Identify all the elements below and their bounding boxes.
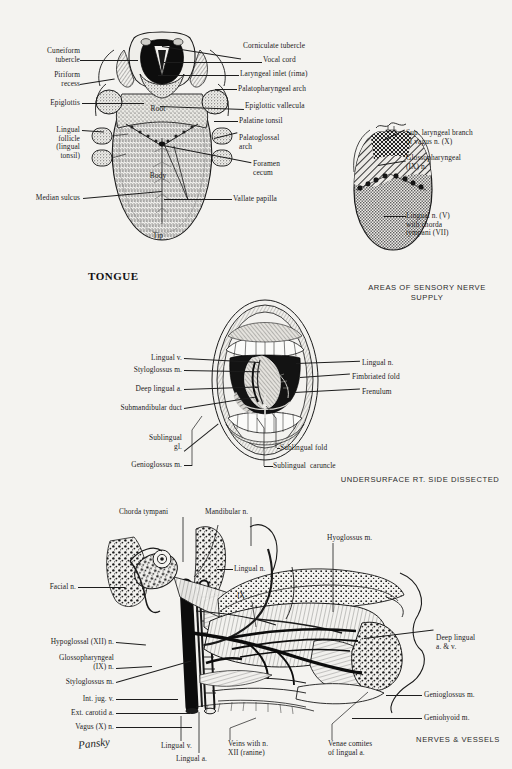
leader-lingual-v-nv [178, 716, 184, 742]
figure-nerves-and-vessels-drawing [100, 515, 430, 745]
figure-caption-nerves-and-vessels: NERVES & VESSELS [408, 735, 508, 745]
leader-cuneiform-tubercle [80, 60, 138, 61]
fig3-label-fimbriated-fold: Fimbriated fold [352, 373, 438, 382]
artist-signature: Pansky [77, 735, 110, 750]
fig4-label-hyoglossus-m: Hyoglossus m. [327, 534, 407, 543]
fig1-label-foramen-cecum: Foramen cecum [253, 160, 343, 177]
fig4-label-lingual-n: Lingual n. [234, 565, 294, 574]
fig4-label-geniohyoid-m: Geniohyoid m. [424, 714, 512, 723]
fig4-label-venae-comites: Venae comites of lingual a. [328, 740, 420, 757]
fig4-label-genioglossus-m: Genioglossus m. [424, 691, 512, 700]
fig3-label-styloglossus-m: Styloglossus m. [100, 366, 182, 375]
fig1-label-palatoglossal-arch: Palatoglossal arch [239, 134, 339, 151]
fig4-label-veins-with-n-xii: Veins with n. XII (ranine) [228, 740, 320, 757]
fig3-genioglossus-pointer [190, 408, 210, 468]
fig2-label-glossopharyngeal: Glossopharyngeal (IX) n. [406, 154, 506, 171]
leader-epiglottis [82, 103, 144, 104]
leader-ext-carotid-a [116, 713, 190, 714]
leader-ix-inline [248, 602, 258, 628]
figure-dorsum-of-tongue-drawing [82, 28, 242, 248]
leader-lingual-n-sensory [384, 216, 406, 217]
leader-facial-n [78, 587, 125, 588]
fig4-label-lingual-v: Lingual v. [161, 742, 223, 751]
leader-int-jug-v [116, 699, 178, 700]
figure-caption-undersurface: UNDERSURFACE RT. SIDE DISSECTED [330, 475, 510, 485]
anatomy-plate-page: Root Body Tip Cuneiform tubercle Pirifor… [0, 0, 512, 769]
fig3-label-deep-lingual-a: Deep lingual a. [100, 385, 182, 394]
leader-veins-with-n-xii [226, 716, 266, 742]
fig1-label-cuneiform-tubercle: Cuneiform tubercle [20, 47, 80, 64]
fig4-label-ix-inline: IX [237, 592, 255, 601]
fig3-label-frenulum: Frenulum [362, 388, 432, 397]
fig3-label-sublingual-fold: Sublingual fold [280, 444, 366, 453]
fig2-label-sup-laryngeal-branch-vagus: Sup. laryngeal branch of vagus n. (X) [406, 129, 510, 146]
fig1-label-lingual-follicle: Lingual follicle (lingual tonsil) [14, 126, 80, 160]
fig1-label-palatine-tonsil: Palatine tonsil [239, 117, 339, 126]
fig1-label-laryngeal-inlet: Laryngeal inlet (rima) [240, 70, 355, 79]
fig1-label-median-sulcus: Median sulcus [10, 194, 80, 203]
fig3-label-genioglossus-m: Genioglossus m. [108, 461, 182, 470]
fig3-label-lingual-v: Lingual v. [110, 354, 182, 363]
fig1-vallate-pointer [160, 142, 190, 202]
figure-caption-sensory-nerve-supply: AREAS OF SENSORY NERVE SUPPLY [352, 283, 502, 302]
leader-lingual-n-nv [217, 569, 233, 570]
figure-title-tongue: TONGUE [88, 270, 138, 282]
fig4-label-glossopharyngeal-ix: Glossopharyngeal (IX) n. [2, 654, 114, 671]
fig1-label-epiglottis: Epiglottis [14, 99, 80, 108]
leader-palatine-tonsil [214, 121, 238, 122]
leader-palatopharyngeal-arch [215, 89, 237, 90]
leader-hyoglossus-m [330, 543, 336, 613]
fig1-label-corniculate-tubercle: Corniculate tubercle [243, 42, 353, 51]
fig1-label-tip: Tip [143, 232, 173, 241]
fig2-label-lingual-n-chorda-tympani: Lingual n. (V) with chorda tympani (VII) [406, 212, 506, 238]
leader-laryngeal-inlet [158, 75, 239, 76]
leader-vocal-cord [163, 62, 262, 63]
fig4-label-deep-lingual-av: Deep lingual a. & v. [436, 634, 512, 651]
fig4-label-hypoglossal-xii: Hypoglossal (XII) n. [2, 638, 114, 647]
leader-lingual-a-nv [196, 712, 202, 754]
fig1-label-palatopharyngeal-arch: Palatopharyngeal arch [238, 85, 356, 94]
fig1-label-vocal-cord: Vocal cord [263, 56, 353, 65]
leader-venae-comites [326, 690, 372, 742]
leader-genioglossus-m-nv [386, 695, 422, 696]
fig4-label-mandibular-n: Mandibular n. [205, 508, 291, 517]
fig4-label-ext-carotid-a: Ext. carotid a. [12, 709, 114, 718]
fig3-caruncle-pointer [252, 412, 268, 468]
fig4-label-int-jug-v: Int. jug. v. [22, 695, 114, 704]
fig1-label-epiglottic-vallecula: Epiglottic vallecula [245, 102, 355, 111]
fig4-label-styloglossus-m: Styloglossus m. [12, 678, 114, 687]
fig3-label-sublingual-caruncle: Sublingual caruncle [273, 462, 383, 471]
fig4-label-chorda-tympani: Chorda tympani [119, 508, 205, 517]
fig3-label-lingual-n: Lingual n. [362, 359, 432, 368]
fig3-label-sublingual-gl: Sublingual gl. [120, 434, 182, 451]
fig3-label-submandibular-duct: Submandibular duct [86, 404, 182, 413]
leader-chorda-tympani [180, 517, 186, 563]
fig4-label-facial-n: Facial n. [8, 583, 76, 592]
fig4-label-vagus-x-n: Vagus (X) n. [12, 723, 114, 732]
fig1-label-piriform-recess: Piriform recess [20, 71, 80, 88]
leader-mandibular-n [248, 517, 254, 547]
fig1-label-vallate-papilla: Vallate papilla [233, 195, 333, 204]
